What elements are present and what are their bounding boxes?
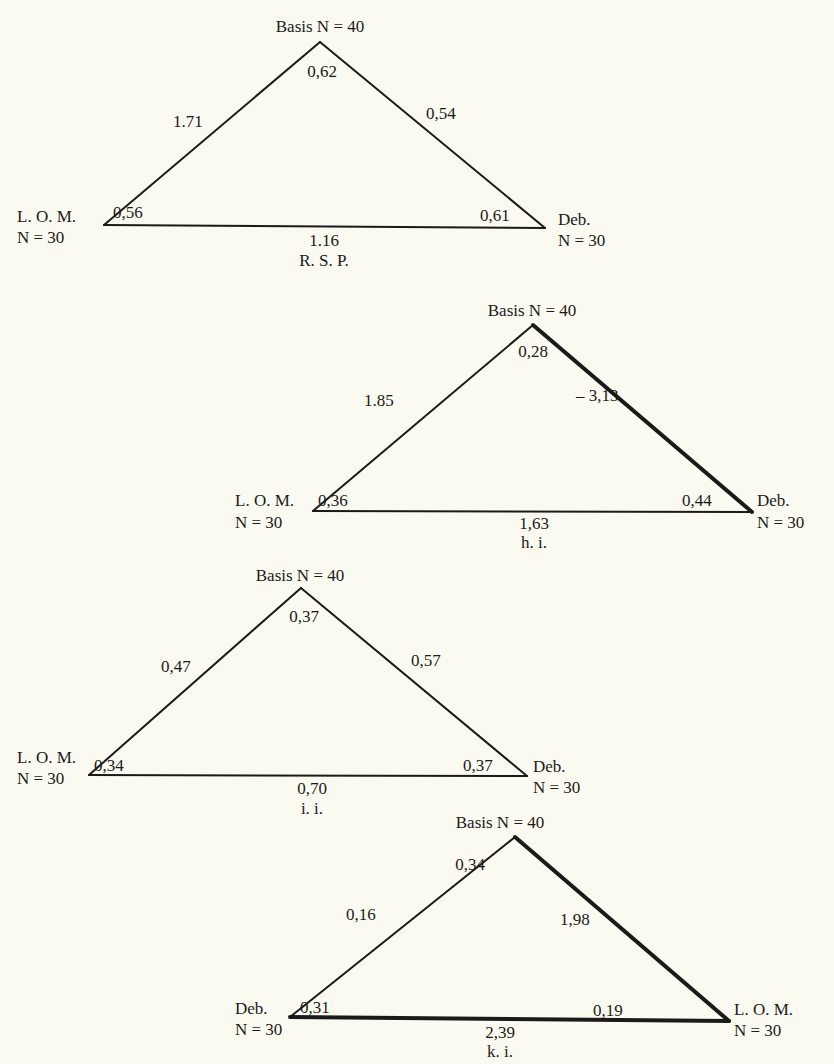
edge-right-value: 0,57	[411, 651, 441, 671]
apex-angle: 0,62	[307, 62, 337, 82]
apex-angle: 0,28	[518, 342, 548, 362]
base-value: 1,63	[519, 514, 549, 534]
right-vertex-n: N = 30	[734, 1021, 781, 1041]
base-value: 0,70	[297, 779, 327, 799]
edge-right-value: – 3,13	[576, 386, 619, 406]
edge-left-value: 1.85	[364, 391, 394, 411]
triangle-3-edge-right	[301, 588, 527, 776]
edge-right-value: 1,98	[560, 910, 590, 930]
left-vertex-name: L. O. M.	[17, 748, 76, 768]
triangle-3-edge-left	[89, 588, 301, 775]
apex-angle: 0,34	[455, 855, 485, 875]
apex-angle: 0,37	[289, 607, 319, 627]
left-vertex-name: Deb.	[235, 999, 268, 1019]
left-vertex-n: N = 30	[17, 228, 64, 248]
triangle-diagram-page: Basis N = 40 0,62 1.71 0,54 0,56 0,61 L.…	[0, 0, 834, 1064]
edge-left-value: 0,47	[161, 657, 191, 677]
left-angle: 0,34	[94, 756, 124, 776]
apex-label: Basis N = 40	[456, 813, 544, 833]
triangle-lines	[0, 0, 834, 1064]
left-vertex-n: N = 30	[235, 1020, 282, 1040]
right-vertex-n: N = 30	[757, 513, 804, 533]
apex-label: Basis N = 40	[276, 17, 364, 37]
caption: i. i.	[301, 799, 323, 819]
right-angle: 0,44	[682, 491, 712, 511]
apex-label: Basis N = 40	[488, 301, 576, 321]
right-angle: 0,61	[480, 206, 510, 226]
left-angle: 0,56	[113, 203, 143, 223]
triangle-4-edge-base	[290, 1017, 729, 1021]
apex-label: Basis N = 40	[256, 566, 344, 586]
right-angle: 0,19	[593, 1001, 623, 1021]
triangle-3-edge-base	[89, 775, 527, 776]
left-vertex-name: L. O. M.	[17, 207, 76, 227]
caption: k. i.	[487, 1042, 513, 1062]
right-vertex-name: Deb.	[533, 757, 566, 777]
right-vertex-n: N = 30	[533, 778, 580, 798]
base-value: 1.16	[309, 231, 339, 251]
right-angle: 0,37	[463, 756, 493, 776]
triangle-2-edge-left	[313, 325, 533, 511]
triangle-1-edge-base	[104, 225, 545, 228]
triangle-2-edge-right	[533, 325, 752, 512]
left-vertex-n: N = 30	[17, 769, 64, 789]
right-vertex-name: L. O. M.	[734, 1000, 793, 1020]
right-vertex-name: Deb.	[558, 210, 591, 230]
base-value: 2,39	[485, 1023, 515, 1043]
right-vertex-name: Deb.	[757, 491, 790, 511]
left-angle: 0,36	[318, 491, 348, 511]
left-vertex-n: N = 30	[235, 513, 282, 533]
triangle-1-edge-left	[104, 42, 320, 225]
triangle-1-edge-right	[320, 42, 545, 228]
caption: h. i.	[521, 533, 547, 553]
edge-left-value: 0,16	[346, 905, 376, 925]
triangle-4-edge-right	[515, 837, 729, 1021]
left-angle: 0,31	[300, 998, 330, 1018]
triangle-2-edge-base	[313, 511, 752, 512]
edge-left-value: 1.71	[173, 112, 203, 132]
caption: R. S. P.	[299, 251, 349, 271]
left-vertex-name: L. O. M.	[235, 491, 294, 511]
right-vertex-n: N = 30	[558, 231, 605, 251]
edge-right-value: 0,54	[426, 104, 456, 124]
